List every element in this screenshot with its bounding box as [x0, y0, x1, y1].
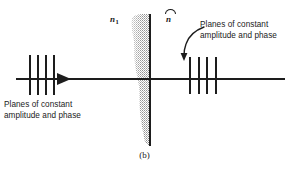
label-surface-normal: n: [166, 15, 171, 24]
wavefronts-left: [29, 55, 55, 95]
wavefront-line: [53, 55, 55, 95]
hat-accent-icon: [165, 9, 176, 14]
wavefront-line: [198, 57, 200, 94]
wavefront-line: [45, 55, 47, 95]
figure-caption-text: (b): [139, 150, 150, 160]
physics-figure: n1 n Planes of constant amplitude and ph…: [0, 0, 289, 171]
wavefront-line: [206, 57, 208, 94]
wavefront-line: [29, 55, 31, 95]
medium-boundary-line: [149, 14, 151, 146]
figure-caption: (b): [0, 150, 289, 160]
annotation-right: Planes of constant amplitude and phase: [200, 19, 289, 41]
label-nhat-base: n: [166, 14, 171, 24]
annotation-left: Planes of constant amplitude and phase: [4, 99, 114, 121]
label-refractive-index: n1: [110, 15, 118, 24]
label-n1-subscript: 1: [116, 18, 119, 25]
wavefront-line: [37, 55, 39, 95]
wavefront-line: [189, 57, 191, 94]
wavefront-line: [215, 57, 217, 94]
attenuation-region: [128, 14, 150, 146]
propagation-arrow-head-icon: [57, 73, 71, 85]
label-n1-base: n: [110, 14, 115, 24]
wavefronts-right: [189, 57, 217, 94]
